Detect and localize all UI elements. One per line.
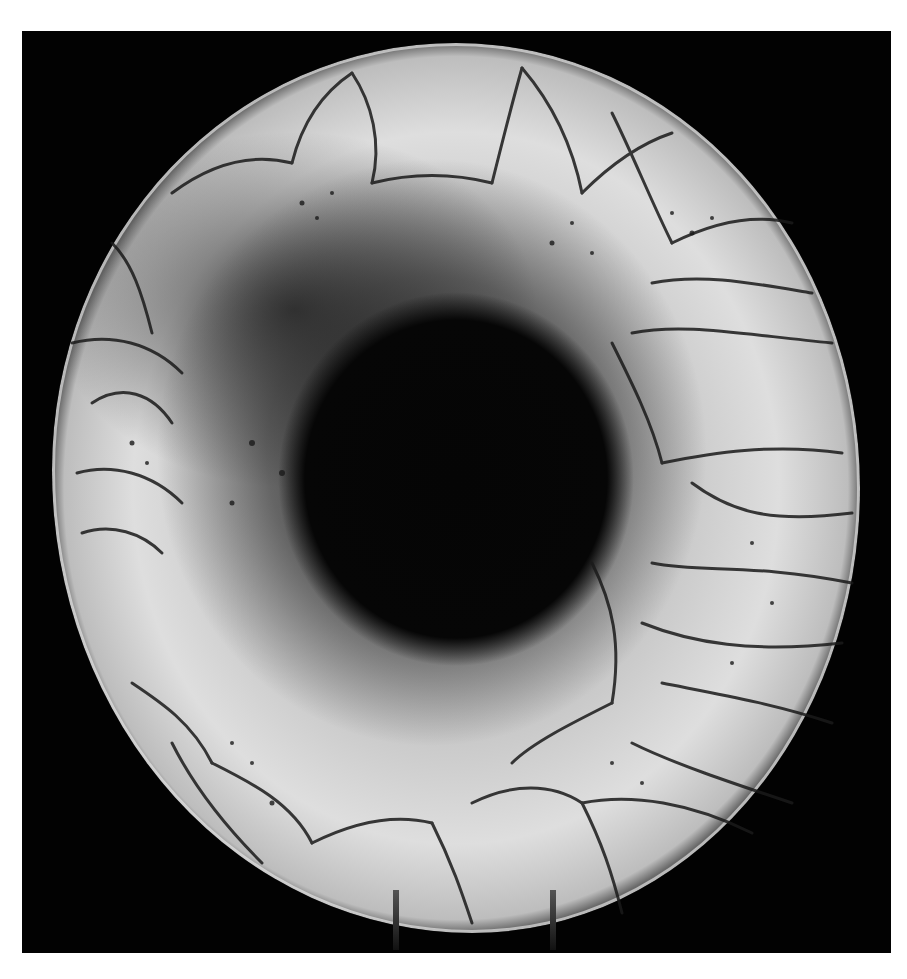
ceramic-plate xyxy=(52,43,860,933)
stand-leg-left xyxy=(393,890,399,950)
photo-frame xyxy=(22,31,891,953)
crackle-pattern xyxy=(52,43,860,933)
stand-leg-right xyxy=(550,890,556,950)
